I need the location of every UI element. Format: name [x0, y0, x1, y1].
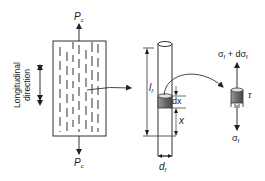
load-label-bottom: Pc [74, 158, 84, 169]
longitudinal-direction-label: Longitudinal direction [12, 62, 32, 108]
dx-label: dx [172, 97, 182, 106]
x-label: x [179, 116, 184, 126]
connector-arrow-2 [164, 74, 223, 95]
diagram-canvas [0, 0, 265, 181]
stress-label-bottom: σf [232, 134, 239, 144]
shear-label: τ [248, 91, 251, 100]
fiber-length-label: lf [149, 83, 153, 94]
fiber-diameter-label: df [159, 162, 166, 173]
stress-label-top: σf + dσf [218, 50, 248, 60]
load-label-top: Pc [74, 12, 84, 23]
single-fiber [158, 42, 172, 157]
